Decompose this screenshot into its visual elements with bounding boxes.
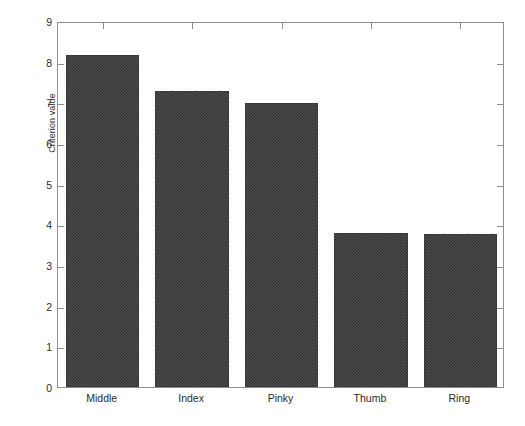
bar-pinky (245, 103, 318, 387)
figure-canvas: Criterion value 0123456789 MiddleIndexPi… (0, 0, 525, 426)
y-tick-label: 2 (38, 301, 52, 313)
y-tick-label: 6 (38, 138, 52, 150)
y-tick-label: 5 (38, 179, 52, 191)
bar-index (155, 91, 228, 387)
x-tick-label-index: Index (178, 392, 204, 404)
y-tick-label: 1 (38, 341, 52, 353)
x-tick-label-thumb: Thumb (354, 392, 387, 404)
y-axis-tick-labels: 0123456789 (34, 22, 52, 388)
x-tick-label-ring: Ring (448, 392, 470, 404)
bar-series (58, 23, 503, 387)
y-tick-label: 3 (38, 260, 52, 272)
y-tick-label: 9 (38, 16, 52, 28)
y-tick-label: 8 (38, 57, 52, 69)
plot-area (57, 22, 504, 388)
y-tick-label: 7 (38, 97, 52, 109)
x-tick-label-middle: Middle (86, 392, 117, 404)
y-tick-label: 0 (38, 382, 52, 394)
x-axis-tick-labels: MiddleIndexPinkyThumbRing (57, 392, 504, 410)
x-tick-label-pinky: Pinky (268, 392, 294, 404)
bar-ring (424, 234, 497, 387)
bar-middle (66, 55, 139, 387)
bar-thumb (334, 233, 407, 387)
y-tick-label: 4 (38, 219, 52, 231)
